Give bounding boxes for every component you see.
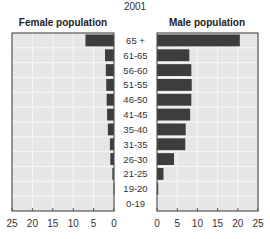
male-bar bbox=[157, 153, 174, 165]
female-bar bbox=[85, 35, 114, 47]
age-group-label: 0-19 bbox=[126, 198, 145, 209]
male-tick-label: 15 bbox=[212, 218, 224, 229]
female-panel: 0510152025 bbox=[6, 33, 117, 229]
male-bar bbox=[157, 64, 191, 76]
female-bar bbox=[108, 124, 114, 136]
age-group-label: 46-50 bbox=[123, 94, 147, 105]
male-bar bbox=[157, 109, 190, 121]
male-bar bbox=[157, 35, 240, 47]
female-tick-label: 20 bbox=[27, 218, 39, 229]
age-group-label: 26-30 bbox=[123, 154, 147, 165]
male-bar bbox=[157, 168, 163, 180]
age-group-label: 56-60 bbox=[123, 65, 147, 76]
age-group-label: 61-65 bbox=[123, 50, 147, 61]
age-group-label: 21-25 bbox=[123, 168, 147, 179]
male-bar bbox=[157, 124, 186, 136]
population-pyramid-chart: 2001 Female population Male population 0… bbox=[0, 0, 270, 239]
female-tick-label: 25 bbox=[6, 218, 18, 229]
age-group-label: 41-45 bbox=[123, 109, 147, 120]
chart-title: 2001 bbox=[124, 1, 147, 12]
male-bar bbox=[157, 49, 189, 61]
female-tick-label: 5 bbox=[91, 218, 97, 229]
male-bar bbox=[157, 79, 192, 91]
male-tick-label: 25 bbox=[252, 218, 264, 229]
age-group-label: 31-35 bbox=[123, 139, 147, 150]
female-bar bbox=[107, 94, 114, 106]
female-bar bbox=[106, 64, 114, 76]
male-panel-title: Male population bbox=[169, 17, 245, 28]
female-bar bbox=[105, 49, 114, 61]
age-group-labels: 65 +61-6556-6051-5546-5041-4535-4031-352… bbox=[123, 35, 147, 209]
male-tick-label: 0 bbox=[154, 218, 160, 229]
female-tick-label: 10 bbox=[68, 218, 80, 229]
female-tick-label: 15 bbox=[47, 218, 59, 229]
age-group-label: 65 + bbox=[126, 35, 145, 46]
female-bar bbox=[107, 109, 114, 121]
age-group-label: 19-20 bbox=[123, 183, 147, 194]
age-group-label: 51-55 bbox=[123, 79, 147, 90]
male-bar bbox=[157, 138, 185, 150]
male-bar bbox=[157, 94, 191, 106]
female-bar bbox=[106, 79, 114, 91]
age-group-label: 35-40 bbox=[123, 124, 147, 135]
male-panel: 0510152025 bbox=[154, 33, 264, 229]
male-tick-label: 10 bbox=[192, 218, 204, 229]
female-bar bbox=[110, 138, 114, 150]
male-tick-label: 5 bbox=[174, 218, 180, 229]
male-tick-label: 20 bbox=[232, 218, 244, 229]
female-panel-title: Female population bbox=[19, 17, 107, 28]
female-tick-label: 0 bbox=[111, 218, 117, 229]
